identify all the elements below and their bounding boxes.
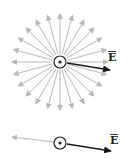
field-line-single	[12, 137, 54, 142]
vector-label-e: E	[108, 51, 116, 64]
field-line	[26, 68, 54, 96]
vector-label-e-2: E	[110, 134, 118, 147]
field-vector-arrow-2	[67, 144, 111, 151]
point-charge-dot-2	[58, 141, 61, 144]
field-line	[66, 28, 94, 56]
field-line	[66, 68, 94, 96]
field-vector-arrow	[67, 63, 110, 70]
point-charge-dot	[58, 60, 61, 63]
electric-field-diagram: E E	[0, 0, 127, 159]
field-line	[26, 28, 54, 56]
